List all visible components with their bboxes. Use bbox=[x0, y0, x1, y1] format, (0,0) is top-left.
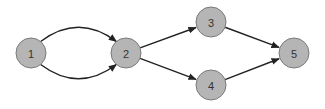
edge-4-to-5 bbox=[225, 59, 279, 80]
edge-2-to-4 bbox=[140, 58, 196, 79]
node-1: 1 bbox=[16, 38, 46, 68]
node-4: 4 bbox=[196, 70, 226, 100]
node-2: 2 bbox=[111, 38, 141, 68]
node-label: 1 bbox=[28, 48, 34, 60]
node-label: 3 bbox=[208, 17, 214, 29]
edge-3-to-5 bbox=[225, 27, 279, 47]
edges-group bbox=[41, 27, 279, 79]
node-label: 5 bbox=[291, 48, 297, 60]
edge-2-to-3 bbox=[140, 27, 196, 47]
node-3: 3 bbox=[196, 7, 226, 37]
nodes-group: 12345 bbox=[16, 7, 309, 100]
edge-1-to-2-down bbox=[41, 64, 117, 78]
node-5: 5 bbox=[279, 38, 309, 68]
node-label: 2 bbox=[123, 48, 129, 60]
graph-diagram: 12345 bbox=[0, 0, 325, 109]
edge-1-to-2-up bbox=[41, 27, 117, 41]
node-label: 4 bbox=[208, 80, 214, 92]
